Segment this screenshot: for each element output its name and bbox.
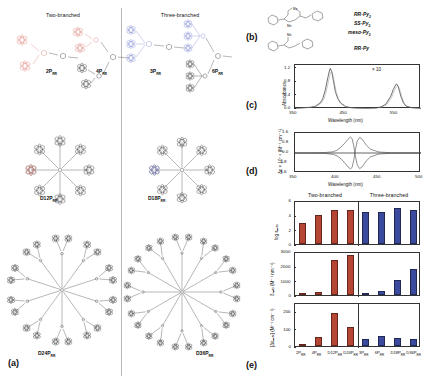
- panel-e-y-tickmark: [294, 281, 296, 282]
- panel-e-header-two-branched: Two-branched: [294, 192, 356, 198]
- panel-e-top-y-axis-title: log εₘₐₓ: [274, 224, 279, 240]
- panel-e-y-tick: 0: [288, 293, 290, 298]
- bar-3P: [362, 339, 369, 346]
- compound-label-d18p: D18PRR: [148, 195, 165, 203]
- panel-e-bottom-chart: [294, 303, 420, 347]
- bar-4P: [315, 337, 322, 346]
- bar-2P: [299, 344, 306, 346]
- panel-d-y-tick: -1.6: [279, 169, 287, 174]
- panel-c-y-tick: 1.2: [284, 65, 290, 70]
- panel-b-structures: Me Me Me: [246, 2, 432, 56]
- panel-c-y-tickmark: [294, 108, 296, 109]
- compound-label-d24p: D24PRR: [38, 350, 55, 358]
- bar-2P: [299, 223, 306, 244]
- compound-label-4p: 4PRR: [96, 68, 107, 76]
- x-category-3P: 3PRR: [359, 350, 368, 357]
- panel-d-x-tick: 500: [415, 174, 422, 179]
- bar-D36P: [410, 269, 417, 295]
- panel-e-y-tick: 6: [288, 198, 290, 203]
- bar-6P: [378, 291, 385, 295]
- panel-e-y-tick: 4: [288, 213, 290, 218]
- panel-d-y-tick: 0.0: [282, 149, 288, 154]
- panel-c-x-tick: 350: [289, 110, 296, 115]
- panel-d-y-tick: 1.6: [282, 129, 288, 134]
- panel-a-label: (a): [8, 358, 19, 368]
- compound-label-3p: 3PRR: [150, 68, 161, 76]
- bar-D12P: [331, 210, 338, 244]
- panel-e-y-tickmark: [294, 267, 296, 268]
- molecule-diagrams: [0, 18, 244, 378]
- panel-e-y-tickmark: [294, 201, 296, 202]
- bar-D36P: [410, 339, 417, 346]
- panel-d-x-tick: 350: [289, 174, 296, 179]
- panel-c-plot-area: [294, 64, 420, 108]
- panel-b-label-meso-py2: meso-Py2: [348, 29, 371, 37]
- panel-e-y-tickmark: [294, 347, 296, 348]
- panel-e-middle-chart: [294, 252, 420, 296]
- panel-c-y-tickmark: [294, 67, 296, 68]
- compound-label-6p: 6PRR: [212, 68, 223, 76]
- panel-e-y-tick: 1000: [281, 279, 291, 284]
- panel-e-y-tickmark: [294, 245, 296, 246]
- panel-b-me-label-2: Me: [287, 24, 292, 28]
- panel-e-y-tick: 0: [288, 242, 290, 247]
- compound-label-d36p: D36PRR: [196, 350, 213, 358]
- panel-c-annotation: × 10: [372, 67, 381, 72]
- panel-e: Two-branched Three-branched log εₘₐₓ δₘₐ…: [246, 192, 432, 381]
- panel-e-bottom-y-axis-title: [Δεₘₐₓ] (M⁻¹ cm⁻¹): [270, 308, 275, 347]
- bar-D24P: [347, 210, 354, 244]
- bar-3P: [362, 212, 369, 244]
- panel-e-y-tickmark: [294, 296, 296, 297]
- x-category-6P: 6PRR: [375, 350, 384, 357]
- bar-D36P: [410, 210, 417, 244]
- panel-d-y-tick: -0.8: [279, 159, 287, 164]
- panel-e-y-tick: 2000: [281, 264, 291, 269]
- panel-c-x-axis-title: Wavelength (nm): [328, 118, 363, 123]
- panel-e-y-tickmark: [294, 216, 296, 217]
- panel-e-group-divider: [358, 202, 359, 246]
- bar-D24P: [347, 327, 354, 346]
- bar-4P: [315, 292, 322, 295]
- panel-b-me-label-1: Me: [293, 7, 298, 11]
- bar-6P: [378, 212, 385, 244]
- panel-d-y-tick: 0.8: [282, 139, 288, 144]
- bar-4P: [315, 215, 322, 244]
- panel-e-y-tickmark: [294, 252, 296, 253]
- panel-b-me-label-3: Me: [287, 33, 292, 37]
- bar-3P: [362, 293, 369, 295]
- panel-e-y-tickmark: [294, 329, 296, 330]
- x-category-4P: 4PRR: [312, 350, 321, 357]
- panel-c-label: (c): [246, 100, 257, 110]
- panel-e-y-tick: 200: [283, 309, 290, 314]
- panel-e-group-divider: [358, 253, 359, 297]
- panel-e-label: (e): [246, 360, 257, 370]
- panel-c-y-tickmark: [294, 81, 296, 82]
- panel-e-top-chart: [294, 201, 420, 245]
- bar-D12P: [331, 260, 338, 295]
- x-category-D36P: D36PRR: [406, 350, 421, 357]
- x-category-D24P: D24PRR: [343, 350, 358, 357]
- panel-c: (c) × 10 Absorbance Wavelength (nm) 0.00…: [246, 58, 432, 126]
- bar-D24P: [347, 255, 354, 295]
- compound-label-2p: 2PRR: [46, 68, 57, 76]
- x-category-2P: 2PRR: [296, 350, 305, 357]
- panel-e-y-tick: 100: [283, 327, 290, 332]
- figure-root: Two-branched Three-branched (a) 2PRR4PRR…: [0, 0, 432, 381]
- panel-b: (b) Me Me: [246, 2, 432, 56]
- panel-d-x-tick: 450: [373, 174, 380, 179]
- panel-e-y-tick: 0: [288, 344, 290, 349]
- panel-a: Two-branched Three-branched (a) 2PRR4PRR…: [0, 0, 244, 381]
- x-category-D12P: D12PRR: [327, 350, 342, 357]
- panel-c-y-tick: 0.8: [284, 78, 290, 83]
- panel-e-y-tickmark: [294, 230, 296, 231]
- panel-b-label-rr-py: RR-Py: [354, 45, 369, 51]
- x-category-D18P: D18PRR: [390, 350, 405, 357]
- panel-c-x-tick: 450: [339, 110, 346, 115]
- panel-e-group-divider: [358, 304, 359, 348]
- panel-d-x-axis-title: Wavelength (nm): [328, 182, 363, 187]
- panel-c-y-tickmark: [294, 94, 296, 95]
- panel-e-header-three-branched: Three-branched: [358, 192, 420, 198]
- compound-label-d12p: D12PRR: [40, 195, 57, 203]
- bar-6P: [378, 336, 385, 346]
- panel-c-x-tick: 550: [390, 110, 397, 115]
